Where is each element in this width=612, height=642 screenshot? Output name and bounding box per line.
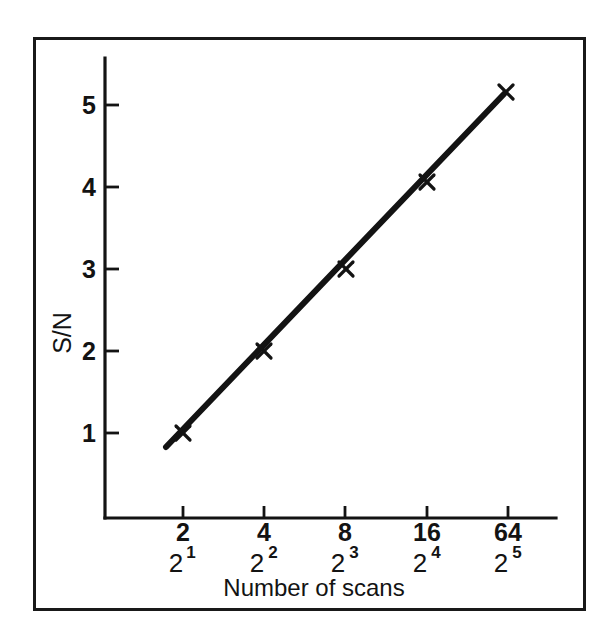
x-tick-power-1: 2 1 [169, 543, 196, 578]
x-axis-tick-labels: 2 4 8 16 64 [176, 518, 522, 546]
x-axis-title: Number of scans [223, 574, 404, 601]
y-tick-label-5: 5 [82, 91, 96, 119]
x-tick-label-4: 16 [413, 518, 441, 546]
x-tick-label-3: 8 [338, 518, 352, 546]
x-tick-power-2: 2 2 [250, 543, 278, 578]
series-line-segment [166, 94, 504, 447]
x-tick-power-base-5: 2 [494, 548, 508, 578]
x-tick-label-1: 2 [176, 518, 190, 546]
y-tick-label-1: 1 [82, 419, 96, 447]
x-tick-power-base-1: 2 [169, 548, 183, 578]
x-tick-label-2: 4 [257, 518, 271, 546]
x-tick-power-base-4: 2 [413, 548, 427, 578]
data-point-marker-3 [339, 262, 353, 276]
y-axis-tick-labels: 5 4 3 2 1 [82, 91, 96, 447]
x-tick-power-5: 2 5 [494, 543, 522, 578]
x-tick-power-exponent-3: 3 [349, 543, 358, 562]
y-tick-label-4: 4 [82, 173, 96, 201]
x-tick-power-exponent-4: 4 [431, 543, 441, 562]
axis-lines [105, 58, 556, 518]
x-tick-power-exponent-5: 5 [512, 543, 521, 562]
y-axis-ticks [105, 105, 119, 433]
x-tick-power-exponent-1: 1 [186, 543, 195, 562]
x-tick-label-5: 64 [494, 518, 522, 546]
plot-area: 5 4 3 2 1 S/N 2 4 8 16 64 2 1 [0, 0, 612, 642]
x-tick-power-3: 2 3 [331, 543, 359, 578]
x-axis-tick-labels-secondary: 2 1 2 2 2 3 2 4 2 5 [169, 543, 522, 578]
y-axis-title: S/N [48, 312, 76, 354]
y-tick-label-2: 2 [82, 337, 96, 365]
figure-root: 5 4 3 2 1 S/N 2 4 8 16 64 2 1 [0, 0, 612, 642]
x-tick-power-exponent-2: 2 [268, 543, 277, 562]
x-tick-power-4: 2 4 [413, 543, 442, 578]
y-tick-label-3: 3 [82, 255, 96, 283]
x-axis-ticks [183, 506, 508, 518]
data-point-marker-5 [499, 85, 513, 99]
data-series-line [166, 94, 504, 447]
